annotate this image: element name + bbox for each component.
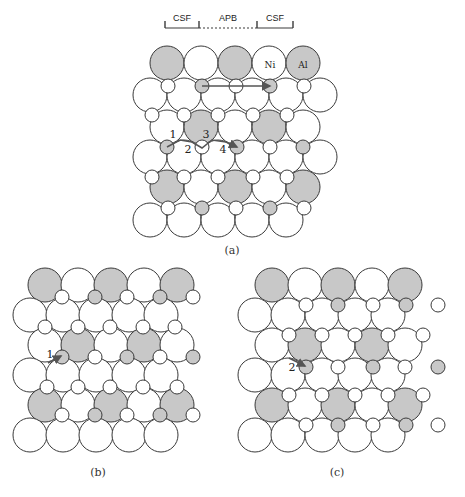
legend-small-ni-atom [431, 418, 445, 432]
large-al-atom [388, 268, 422, 302]
panel-caption-c: (c) [330, 466, 345, 479]
atomic-structure-figure: CSFAPBCSF NiAl1234(a) 1(b) 2(c) [0, 0, 465, 497]
small-ni-atom [282, 328, 296, 342]
small-ni-atom [398, 360, 412, 374]
large-ni-atom [144, 418, 178, 452]
small-al-atom [55, 350, 69, 364]
small-al-atom [399, 418, 413, 432]
header-label-csf: CSF [173, 13, 192, 23]
small-ni-atom [103, 380, 117, 394]
small-ni-atom [186, 290, 200, 304]
large-al-atom [255, 268, 289, 302]
legend-small-ni-atom [431, 298, 445, 312]
small-ni-atom [161, 201, 175, 215]
panel-a-diagram: NiAl1234(a) [133, 46, 337, 257]
path-step-label-2: 2 [289, 361, 296, 374]
small-al-atom [186, 350, 200, 364]
small-ni-atom [211, 170, 225, 184]
small-ni-atom [145, 170, 159, 184]
panel-caption-b: (b) [90, 466, 106, 479]
path-step-label-1: 1 [170, 128, 177, 141]
small-al-atom [331, 418, 345, 432]
fault-type-header: CSFAPBCSF [165, 13, 293, 28]
large-ni-atom [238, 298, 272, 332]
small-ni-atom [71, 380, 85, 394]
small-al-atom [153, 290, 167, 304]
small-ni-atom [280, 108, 294, 122]
large-al-atom [321, 268, 355, 302]
small-ni-atom [136, 320, 150, 334]
path-step-label-3: 3 [203, 128, 210, 141]
header-label-apb: APB [219, 13, 237, 23]
small-ni-atom [177, 170, 191, 184]
small-ni-atom [246, 170, 260, 184]
small-ni-atom [103, 320, 117, 334]
panel-c-diagram: 2(c) [238, 268, 445, 479]
small-ni-atom [366, 418, 380, 432]
small-ni-atom [416, 328, 430, 342]
small-ni-atom [299, 298, 313, 312]
small-ni-atom [120, 290, 134, 304]
small-al-atom [263, 201, 277, 215]
small-ni-atom [348, 388, 362, 402]
large-ni-atom [238, 358, 272, 392]
large-ni-atom [288, 268, 322, 302]
small-ni-atom [297, 201, 311, 215]
small-ni-atom [381, 328, 395, 342]
path-step-label-2: 2 [185, 143, 192, 156]
small-ni-atom [315, 388, 329, 402]
small-ni-atom [297, 79, 311, 93]
small-ni-atom [161, 79, 175, 93]
atom-label-al: Al [297, 60, 307, 70]
large-ni-atom [79, 418, 113, 452]
small-ni-atom [211, 108, 225, 122]
small-al-atom [195, 201, 209, 215]
large-ni-atom [112, 418, 146, 452]
header-label-csf: CSF [266, 13, 285, 23]
small-ni-atom [145, 108, 159, 122]
small-al-atom [331, 298, 345, 312]
large-ni-atom [355, 268, 389, 302]
small-ni-atom [280, 170, 294, 184]
small-al-atom [120, 350, 134, 364]
small-ni-atom [416, 388, 430, 402]
large-ni-atom [13, 418, 47, 452]
small-al-atom [296, 140, 310, 154]
small-ni-atom [168, 320, 182, 334]
small-ni-atom [282, 388, 296, 402]
small-ni-atom [177, 108, 191, 122]
large-al-atom [218, 46, 252, 80]
small-al-atom [88, 408, 102, 422]
small-ni-atom [120, 408, 134, 422]
small-al-atom [366, 360, 380, 374]
panel-b-diagram: 1(b) [13, 268, 200, 479]
legend-small-al-atom [431, 360, 445, 374]
small-ni-atom [263, 140, 277, 154]
small-ni-atom [299, 418, 313, 432]
small-ni-atom [331, 360, 345, 374]
small-ni-atom [186, 408, 200, 422]
atom-label-ni: Ni [265, 60, 276, 70]
small-ni-atom [88, 350, 102, 364]
small-ni-atom [55, 408, 69, 422]
small-al-atom [399, 298, 413, 312]
small-ni-atom [381, 388, 395, 402]
panel-caption-a: (a) [224, 244, 239, 257]
path-step-label-4: 4 [220, 143, 227, 156]
small-al-atom [153, 408, 167, 422]
small-ni-atom [136, 380, 150, 394]
small-al-atom [299, 360, 313, 374]
small-ni-atom [366, 298, 380, 312]
path-step-label-1: 1 [47, 348, 54, 361]
small-ni-atom [246, 108, 260, 122]
small-ni-atom [71, 320, 85, 334]
small-ni-atom [55, 290, 69, 304]
large-al-atom [150, 46, 184, 80]
small-ni-atom [40, 380, 54, 394]
small-ni-atom [38, 320, 52, 334]
large-ni-atom [238, 418, 272, 452]
small-al-atom [88, 290, 102, 304]
small-ni-atom [315, 328, 329, 342]
small-ni-atom [348, 328, 362, 342]
small-ni-atom [153, 350, 167, 364]
